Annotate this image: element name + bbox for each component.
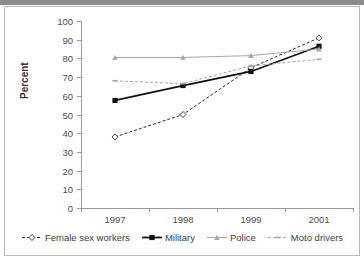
legend-item[interactable]: Police [206,233,256,243]
legend-marker-icon [21,233,43,242]
legend-label: Military [165,233,195,243]
series-line [115,38,319,137]
y-tick-label: 50 [47,109,73,120]
x-tick [353,208,354,212]
y-tick-label: 70 [47,72,73,83]
y-tick-label: 80 [47,53,73,64]
x-tick [285,208,286,212]
y-tick-label: 0 [47,203,73,214]
data-point-marker [149,235,154,240]
legend-item[interactable]: Military [141,233,195,243]
y-tick-label: 30 [47,146,73,157]
chart-legend: Female sex workersMilitaryPoliceMoto dri… [4,233,360,243]
data-point-marker [112,98,117,103]
x-tick [149,208,150,212]
legend-marker-icon [206,233,228,242]
data-point-marker [316,35,322,41]
series-line [115,49,319,57]
legend-label: Female sex workers [45,233,130,243]
x-tick [81,208,82,212]
series-line [115,46,319,100]
data-point-marker [180,112,186,118]
y-axis-title: Percent [19,62,30,99]
chart-figure: Percent 0102030405060708090100 199719981… [0,0,364,260]
y-tick-label: 90 [47,34,73,45]
legend-marker-icon [267,233,289,242]
y-tick-label: 20 [47,165,73,176]
legend-label: Moto drivers [291,233,343,243]
data-point-marker [29,235,35,241]
legend-item[interactable]: Moto drivers [267,233,343,243]
legend-item[interactable]: Female sex workers [21,233,130,243]
plot-area: 0102030405060708090100 1997199819992001 [81,21,353,208]
figure-frame: Percent 0102030405060708090100 199719981… [4,6,360,256]
x-tick-label: 2001 [308,214,329,225]
data-point-marker [112,134,118,140]
series-line [115,59,319,83]
header-bar [0,0,364,5]
y-tick-label: 100 [47,16,73,27]
legend-marker-icon [141,233,163,242]
x-tick-label: 1999 [240,214,261,225]
y-tick-label: 60 [47,90,73,101]
x-tick-label: 1997 [104,214,125,225]
series-lines [81,21,353,208]
y-tick-label: 40 [47,128,73,139]
data-point-marker [248,69,253,74]
x-tick [217,208,218,212]
legend-label: Police [230,233,256,243]
x-tick-label: 1998 [172,214,193,225]
y-tick-label: 10 [47,184,73,195]
